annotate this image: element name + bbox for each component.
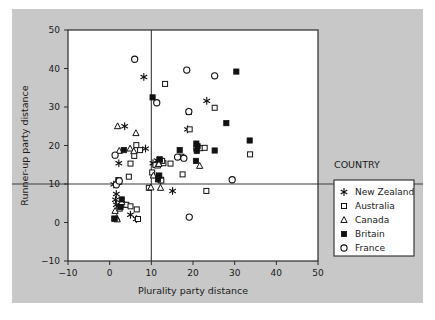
x-tick-label-50: 50 bbox=[312, 268, 324, 278]
data-point bbox=[194, 148, 199, 153]
plot-area-background bbox=[68, 30, 318, 261]
x-tick-label--10: −10 bbox=[59, 268, 78, 278]
data-point bbox=[234, 69, 239, 74]
legend-label-new-zealand: New Zealand bbox=[355, 187, 414, 197]
y-tick-label-20: 20 bbox=[49, 141, 61, 151]
data-point bbox=[150, 95, 155, 100]
legend-label-australia: Australia bbox=[355, 201, 395, 211]
data-point bbox=[116, 178, 122, 184]
y-tick-label-40: 40 bbox=[49, 64, 61, 74]
data-point bbox=[132, 56, 138, 62]
x-tick-label-0: 0 bbox=[107, 268, 113, 278]
data-point bbox=[212, 105, 217, 110]
data-point bbox=[119, 197, 124, 202]
y-tick-label-50: 50 bbox=[49, 25, 61, 35]
data-point bbox=[136, 217, 141, 222]
x-tick-label-40: 40 bbox=[271, 268, 283, 278]
legend-label-britain: Britain bbox=[355, 229, 385, 239]
data-point bbox=[155, 177, 160, 182]
data-point bbox=[112, 152, 118, 158]
data-point bbox=[121, 148, 126, 153]
legend-label-france: France bbox=[355, 243, 385, 253]
y-axis-title: Runner-up party distance bbox=[19, 85, 30, 205]
data-point bbox=[177, 148, 182, 153]
legend-label-canada: Canada bbox=[355, 215, 389, 225]
legend-title: COUNTRY bbox=[334, 159, 380, 170]
data-point bbox=[194, 141, 199, 146]
data-point bbox=[229, 177, 235, 183]
y-tick-label-10: 10 bbox=[49, 179, 61, 189]
legend-marker-open-circle-icon bbox=[341, 245, 347, 251]
data-point bbox=[128, 161, 133, 166]
x-tick-label-10: 10 bbox=[146, 268, 158, 278]
data-point bbox=[138, 148, 143, 153]
data-point bbox=[168, 161, 173, 166]
y-tick-label--10: −10 bbox=[41, 256, 60, 266]
data-point bbox=[184, 67, 190, 73]
data-point bbox=[157, 157, 162, 162]
data-point bbox=[126, 174, 131, 179]
figure-panel: −1001020304050−1001020304050Plurality pa… bbox=[12, 9, 423, 303]
scatter-chart: −1001020304050−1001020304050Plurality pa… bbox=[12, 9, 423, 303]
data-point bbox=[212, 148, 217, 153]
data-point bbox=[180, 172, 185, 177]
x-tick-label-20: 20 bbox=[187, 268, 199, 278]
x-axis-title: Plurality party distance bbox=[138, 285, 248, 296]
data-point bbox=[134, 143, 139, 148]
data-point bbox=[204, 188, 209, 193]
data-point bbox=[128, 204, 133, 209]
data-point bbox=[118, 205, 123, 210]
y-tick-label-30: 30 bbox=[49, 102, 61, 112]
x-tick-label-30: 30 bbox=[229, 268, 241, 278]
data-point bbox=[248, 152, 253, 157]
data-point bbox=[112, 216, 117, 221]
data-point bbox=[186, 214, 192, 220]
data-point bbox=[154, 100, 160, 106]
y-tick-label-0: 0 bbox=[54, 218, 60, 228]
data-point bbox=[193, 158, 198, 163]
data-point bbox=[163, 81, 168, 86]
legend-marker-filled-square-icon bbox=[341, 231, 346, 236]
data-point bbox=[212, 73, 218, 79]
data-point bbox=[186, 109, 192, 115]
data-point bbox=[187, 127, 192, 132]
data-point bbox=[181, 155, 187, 161]
data-point bbox=[134, 207, 139, 212]
data-point bbox=[224, 121, 229, 126]
data-point bbox=[202, 145, 207, 150]
data-point bbox=[247, 138, 252, 143]
legend-marker-open-square-small-icon bbox=[342, 204, 347, 209]
data-point bbox=[174, 154, 180, 160]
